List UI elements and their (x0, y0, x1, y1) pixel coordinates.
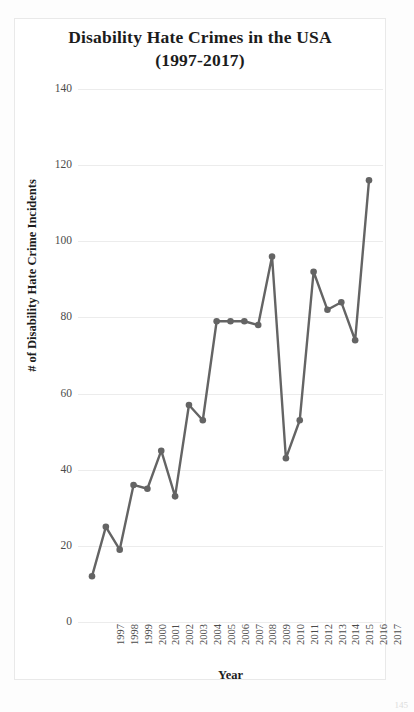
data-point-2006 (213, 318, 220, 325)
data-point-1999 (116, 546, 123, 553)
x-tick-label-2006: 2006 (240, 624, 251, 670)
data-point-1997 (89, 573, 96, 580)
data-point-2003 (172, 493, 179, 500)
x-tick-label-1998: 1998 (129, 624, 140, 670)
x-tick-label-2001: 2001 (170, 624, 181, 670)
chart-title: Disability Hate Crimes in the USA (1997-… (14, 26, 386, 72)
y-tick-label-20: 20 (28, 540, 72, 551)
x-tick-label-2017: 2017 (392, 624, 403, 670)
data-point-2007 (227, 318, 234, 325)
data-point-2013 (310, 268, 317, 275)
data-point-1998 (103, 524, 110, 531)
data-point-2004 (186, 402, 193, 409)
data-point-2015 (338, 299, 345, 306)
data-point-2002 (158, 447, 165, 454)
data-point-2017 (366, 177, 373, 184)
x-tick-label-2005: 2005 (226, 624, 237, 670)
x-tick-label-2007: 2007 (254, 624, 265, 670)
x-tick-label-1997: 1997 (115, 624, 126, 670)
data-point-2009 (255, 322, 262, 329)
series-markers (89, 177, 373, 580)
x-tick-label-1999: 1999 (143, 624, 154, 670)
x-tick-label-2003: 2003 (198, 624, 209, 670)
y-tick-label-140: 140 (28, 83, 72, 94)
x-axis-tick-labels: 1997199819992000200120022003200420052006… (78, 624, 383, 670)
x-tick-label-2012: 2012 (323, 624, 334, 670)
x-tick-label-2013: 2013 (337, 624, 348, 670)
data-point-2010 (269, 253, 276, 260)
data-point-2000 (130, 482, 137, 489)
page-canvas: Disability Hate Crimes in the USA (1997-… (0, 0, 414, 712)
series-line-incidents (92, 180, 369, 576)
y-tick-label-40: 40 (28, 464, 72, 475)
data-point-2011 (283, 455, 290, 462)
x-axis-title: Year (78, 668, 383, 683)
x-tick-label-2016: 2016 (378, 624, 389, 670)
data-point-2005 (200, 417, 207, 424)
x-tick-label-2000: 2000 (157, 624, 168, 670)
x-tick-label-2002: 2002 (184, 624, 195, 670)
chart-title-line2: (1997-2017) (14, 49, 386, 72)
data-point-2016 (352, 337, 359, 344)
data-point-2001 (144, 485, 151, 492)
x-tick-label-2004: 2004 (212, 624, 223, 670)
chart-title-line1: Disability Hate Crimes in the USA (68, 27, 332, 47)
y-tick-label-0: 0 (28, 616, 72, 627)
x-tick-label-2011: 2011 (309, 624, 320, 670)
data-point-2012 (296, 417, 303, 424)
x-tick-label-2009: 2009 (281, 624, 292, 670)
data-point-2014 (324, 307, 331, 314)
x-tick-label-2008: 2008 (267, 624, 278, 670)
data-point-2008 (241, 318, 248, 325)
gridline-0 (78, 622, 383, 623)
x-tick-label-2014: 2014 (350, 624, 361, 670)
plot-area (78, 89, 383, 622)
x-tick-label-2010: 2010 (295, 624, 306, 670)
x-tick-label-2015: 2015 (364, 624, 375, 670)
page-number: 145 (395, 700, 409, 710)
y-axis-title: # of Disability Hate Crime Incidents (25, 156, 40, 396)
line-series-svg (78, 89, 383, 622)
